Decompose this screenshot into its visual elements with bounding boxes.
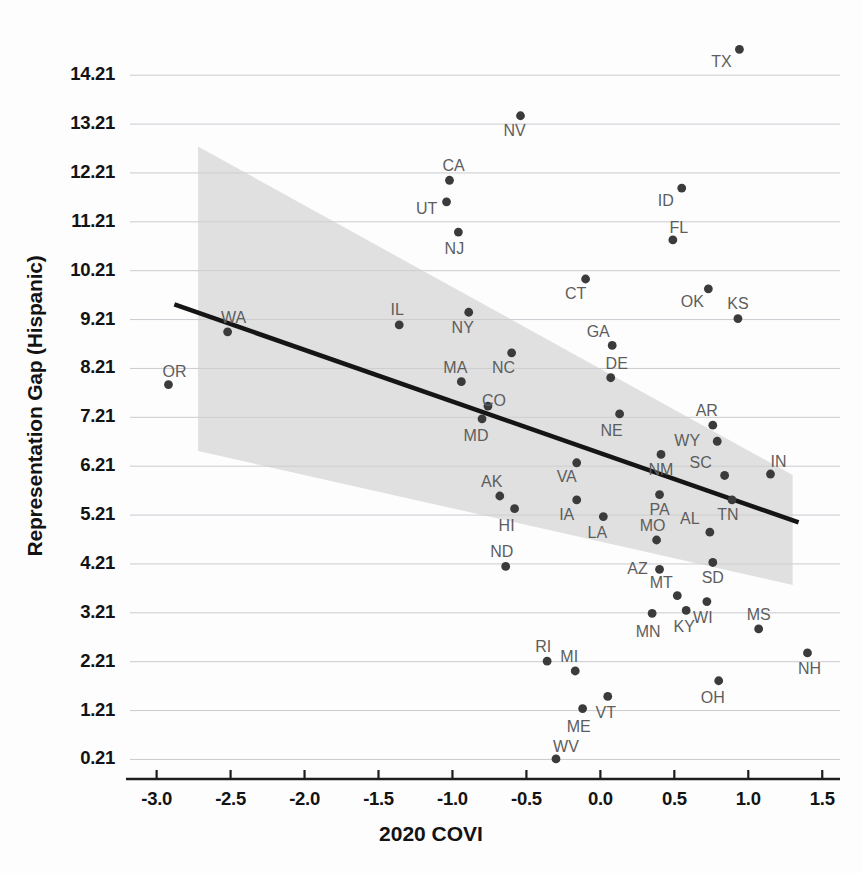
point-marker [223, 327, 232, 336]
point-marker [572, 496, 581, 505]
point-marker [655, 490, 664, 499]
data-point-ND: ND [490, 543, 513, 570]
data-point-WI: WI [693, 597, 713, 625]
point-label: FL [670, 219, 689, 236]
point-marker [581, 275, 590, 284]
point-marker [495, 492, 504, 501]
point-label: CA [442, 157, 465, 174]
point-marker [608, 341, 617, 350]
point-marker [655, 565, 664, 574]
data-point-ID: ID [658, 184, 686, 209]
point-marker [457, 377, 466, 386]
point-label: MD [464, 427, 489, 444]
scatter-plot-figure: Representation Gap (Hispanic) 2020 COVI … [0, 0, 862, 873]
point-label: NY [452, 319, 475, 336]
data-point-MT: MT [650, 574, 682, 600]
point-label: NV [503, 122, 526, 139]
point-label: VA [557, 468, 577, 485]
data-point-MS: MS [747, 606, 771, 633]
point-marker [720, 471, 729, 480]
point-label: KY [673, 618, 695, 635]
point-marker [603, 692, 612, 701]
data-point-TX: TX [711, 45, 744, 70]
point-marker [615, 409, 624, 418]
point-label: NJ [445, 240, 465, 257]
point-label: AL [680, 510, 700, 527]
point-marker [606, 373, 615, 382]
point-marker [164, 380, 173, 389]
data-point-OK: OK [681, 284, 713, 309]
point-marker [754, 625, 763, 634]
point-marker [652, 536, 661, 545]
point-label: MO [640, 517, 666, 534]
point-marker [445, 176, 454, 185]
point-label: DE [606, 355, 628, 372]
point-marker [708, 421, 717, 430]
point-marker [442, 197, 451, 206]
data-point-GA: GA [587, 323, 617, 349]
point-marker [516, 111, 525, 120]
point-marker [510, 504, 519, 513]
point-marker [501, 562, 510, 571]
point-marker [543, 657, 552, 666]
point-marker [702, 597, 711, 606]
point-label: WV [553, 738, 579, 755]
point-marker [766, 470, 775, 479]
point-marker [803, 649, 812, 658]
point-label: IL [391, 301, 404, 318]
point-marker [704, 284, 713, 293]
point-label: IA [559, 506, 574, 523]
data-point-FL: FL [668, 219, 688, 244]
data-point-CA: CA [442, 157, 465, 184]
data-point-OH: OH [701, 676, 725, 705]
point-label: CT [565, 285, 587, 302]
point-label: OH [701, 689, 725, 706]
point-label: SC [690, 454, 712, 471]
data-point-NV: NV [503, 111, 526, 138]
point-marker [657, 450, 666, 459]
data-point-CT: CT [565, 275, 590, 302]
data-point-MN: MN [636, 609, 661, 640]
point-marker [677, 184, 686, 193]
point-label: AK [481, 473, 503, 490]
point-label: PA [649, 501, 669, 518]
point-marker [464, 308, 473, 317]
data-point-ME: ME [567, 704, 591, 734]
point-label: MS [747, 606, 771, 623]
point-label: ID [658, 192, 674, 209]
point-label: TN [717, 506, 738, 523]
point-label: AZ [627, 560, 648, 577]
point-label: RI [535, 638, 551, 655]
point-label: MA [443, 359, 467, 376]
point-label: NM [649, 461, 674, 478]
point-marker [682, 606, 691, 615]
point-label: ND [490, 543, 513, 560]
data-point-VT: VT [596, 692, 617, 721]
data-point-CO: CO [482, 392, 506, 410]
point-marker [734, 314, 743, 323]
point-marker [578, 704, 587, 713]
point-marker [454, 228, 463, 237]
point-label: NC [492, 359, 515, 376]
data-point-KY: KY [673, 606, 695, 635]
point-label: AR [696, 402, 718, 419]
axis-lines [126, 770, 840, 779]
point-label: OK [681, 293, 704, 310]
point-marker [507, 348, 516, 357]
point-label: WI [693, 609, 713, 626]
point-label: UT [416, 200, 438, 217]
point-label: CO [482, 392, 506, 409]
point-marker [713, 437, 722, 446]
data-point-NJ: NJ [445, 228, 465, 257]
point-label: KS [727, 295, 748, 312]
point-label: TX [711, 53, 732, 70]
point-marker [673, 591, 682, 600]
point-label: HI [499, 517, 515, 534]
plot-canvas: TXNVCAUTIDNJFLCTOKKSILWANYGADENCMAORARCO… [0, 0, 862, 873]
point-label: SD [702, 569, 724, 586]
point-label: NH [798, 660, 821, 677]
point-label: VT [596, 704, 617, 721]
point-marker [668, 236, 677, 245]
point-label: OR [162, 363, 186, 380]
point-marker [478, 414, 487, 423]
